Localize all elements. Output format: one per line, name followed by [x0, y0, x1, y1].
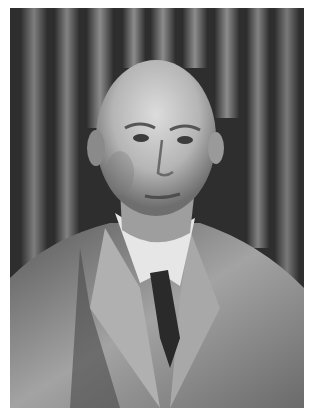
- portrait-illustration: [10, 8, 304, 408]
- portrait-photo: [10, 8, 304, 408]
